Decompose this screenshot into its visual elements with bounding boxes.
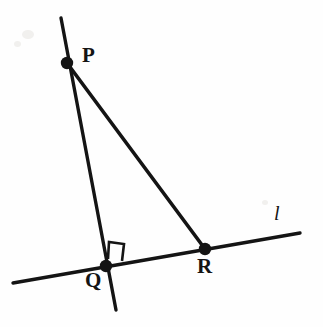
point-label-r: R	[197, 256, 212, 277]
point-label-q: Q	[85, 270, 101, 291]
line-l	[13, 233, 300, 283]
line-label-l: l	[274, 203, 280, 223]
point-label-p: P	[82, 45, 95, 66]
diagram-canvas	[0, 0, 323, 327]
point-q-dot	[100, 260, 112, 272]
point-p-dot	[61, 57, 73, 69]
geometry-figure: P Q R l	[0, 0, 323, 327]
right-angle-marker-icon	[108, 242, 124, 261]
